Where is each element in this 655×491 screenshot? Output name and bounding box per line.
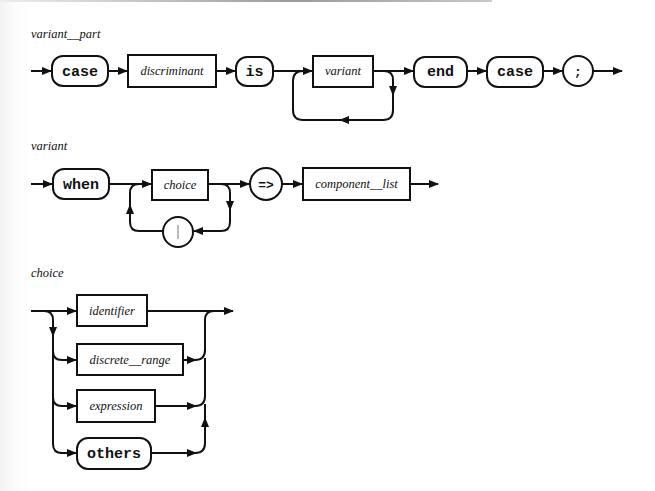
nonterminal-variant: variant [313, 56, 373, 87]
nonterminal-discriminant: discriminant [128, 55, 216, 87]
terminal-label: end [427, 64, 454, 81]
terminal-label: others [87, 446, 141, 463]
nonterminal-label: choice [164, 178, 197, 192]
nonterminal-label: component__list [315, 177, 398, 191]
terminal-arrow: => [250, 168, 282, 200]
diagram-title: variant [31, 139, 68, 153]
terminal-is: is [236, 57, 273, 86]
nonterminal-label: expression [90, 399, 143, 413]
merge-line [195, 358, 205, 406]
nonterminal-choice: choice [152, 170, 208, 200]
nonterminal-discrete-range: discrete__range [77, 344, 183, 375]
nonterminal-identifier: identifier [77, 295, 147, 326]
diagram-variant-part: variant__part case discriminant is varia… [31, 27, 622, 120]
loop-up-arrow [130, 205, 163, 231]
branch-trunk [53, 334, 62, 453]
nonterminal-label: discriminant [140, 64, 204, 78]
diagram-title: variant__part [31, 27, 101, 41]
terminal-label: is [245, 64, 263, 81]
loop-down-arrow [208, 184, 230, 210]
merge-line [195, 311, 214, 360]
terminal-end: end [414, 57, 467, 87]
nonterminal-label: discrete__range [90, 353, 171, 367]
nonterminal-label: variant [325, 64, 362, 78]
terminal-label: when [63, 177, 99, 194]
diagram-variant: variant when choice | => compon [31, 139, 438, 247]
branch-arrow [53, 351, 76, 360]
terminal-when: when [53, 169, 109, 199]
merge-up-arrow [195, 418, 205, 453]
loop-down-arrow [373, 71, 393, 95]
loop-up-line [130, 184, 139, 207]
syntax-diagrams: variant__part case discriminant is varia… [0, 0, 655, 491]
branch-down-arrow [44, 311, 53, 336]
diagram-choice: choice identifier discrete__range expres… [31, 266, 233, 469]
terminal-label: => [258, 178, 274, 193]
branch-arrow [53, 397, 76, 406]
nonterminal-expression: expression [77, 390, 155, 422]
terminal-others: others [77, 438, 151, 469]
nonterminal-component-list: component__list [303, 168, 410, 200]
terminal-separator: | [163, 217, 193, 247]
loop-back-arrow [340, 94, 393, 120]
terminal-label: case [497, 64, 533, 81]
terminal-semicolon: ; [563, 56, 593, 86]
loop-into-separator-arrow [194, 208, 230, 231]
diagram-title: choice [31, 266, 64, 280]
terminal-label: case [62, 64, 98, 81]
nonterminal-label: identifier [89, 304, 135, 318]
terminal-case: case [487, 57, 543, 87]
terminal-label: ; [574, 65, 582, 80]
terminal-case: case [52, 56, 108, 86]
